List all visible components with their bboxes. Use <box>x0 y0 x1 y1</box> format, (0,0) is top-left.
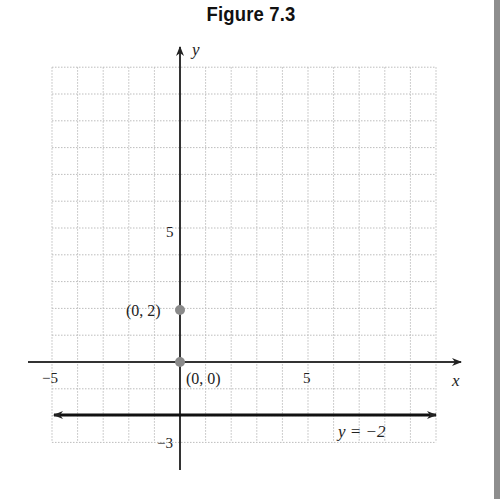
point-label-0-0: (0, 0) <box>186 370 221 388</box>
line-label: y = −2 <box>336 422 386 441</box>
tick-y-5: 5 <box>166 224 174 240</box>
tick-x-5: 5 <box>303 370 311 386</box>
point-0-0 <box>175 357 185 367</box>
point-label-0-2: (0, 2) <box>126 302 161 320</box>
tick-y-neg3: −3 <box>157 435 173 451</box>
point-0-2 <box>175 305 185 315</box>
grid-lines <box>52 67 436 442</box>
x-axis-label: x <box>451 371 460 390</box>
coordinate-plane: y x −5 5 5 −3 (0, 2) (0, 0) y = −2 <box>0 0 502 499</box>
y-axis-label: y <box>190 40 200 59</box>
axes <box>28 47 461 470</box>
tick-x-neg5: −5 <box>42 370 58 386</box>
line-label-text: y = −2 <box>336 422 386 441</box>
